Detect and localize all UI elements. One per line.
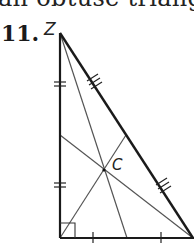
median-from-bottom-right xyxy=(60,135,193,238)
triangle-diagram xyxy=(0,0,194,243)
median-from-z xyxy=(60,33,127,238)
centroid-point xyxy=(102,168,105,171)
